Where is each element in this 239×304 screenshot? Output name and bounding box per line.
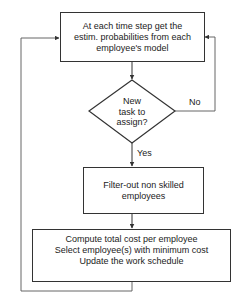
no-label: No (189, 97, 201, 107)
compute-line-3: Update the work schedule (55, 256, 209, 267)
filter-line-1: Filter-out non skilled (103, 180, 184, 191)
estimate-line-2: estim. probabilities from each (74, 32, 191, 43)
yes-label: Yes (137, 148, 152, 158)
filter-employees-box: Filter-out non skilled employees (83, 167, 204, 214)
decision-line-3: assign? (102, 117, 162, 128)
estimate-line-1: At each time step get the (74, 21, 191, 32)
filter-line-2: employees (103, 191, 184, 202)
decision-line-1: New (102, 96, 162, 107)
compute-line-2: Select employee(s) with minimum cost (55, 245, 209, 256)
decision-line-2: task to (102, 107, 162, 118)
compute-cost-box: Compute total cost per employee Select e… (32, 229, 231, 282)
decision-text: New task to assign? (102, 96, 162, 128)
estimate-line-3: employee's model (74, 43, 191, 54)
estimate-probabilities-box: At each time step get the estim. probabi… (60, 12, 205, 62)
compute-line-1: Compute total cost per employee (55, 234, 209, 245)
